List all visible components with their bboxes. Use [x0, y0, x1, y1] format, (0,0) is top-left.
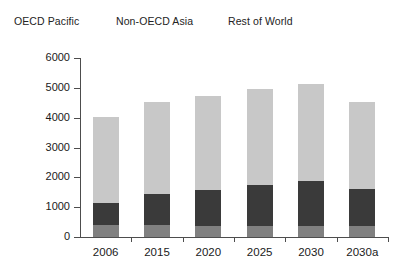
x-axis-tick [285, 237, 286, 242]
x-axis-tick [388, 237, 389, 242]
bar-2006 [93, 117, 119, 237]
x-axis-tick [234, 237, 235, 242]
y-axis-tick-label: 1000 [24, 201, 70, 212]
legend-item-non-oecd-asia: Non-OECD Asia [116, 14, 193, 28]
x-axis-tick-label: 2030a [332, 246, 392, 259]
bar-segment [195, 190, 221, 226]
x-axis-tick [337, 237, 338, 242]
bar-segment [93, 225, 119, 237]
y-axis-tick-label: 3000 [24, 142, 70, 153]
plot-area [80, 58, 388, 237]
bar-segment [93, 117, 119, 203]
y-axis-tick-label: 5000 [24, 82, 70, 93]
y-axis-tick-label: 4000 [24, 112, 70, 123]
bar-2025 [247, 89, 273, 237]
bar-segment [298, 181, 324, 226]
y-axis-tick-label: 2000 [24, 171, 70, 182]
bar-segment [195, 226, 221, 237]
bar-segment [349, 226, 375, 237]
bar-segment [298, 84, 324, 181]
chart-legend: OECD Pacific Non-OECD Asia Rest of World [0, 14, 398, 32]
bar-segment [349, 102, 375, 189]
legend-item-rest-of-world: Rest of World [228, 14, 293, 28]
stacked-bar-chart: OECD Pacific Non-OECD Asia Rest of World… [0, 0, 398, 273]
bar-2030a [349, 102, 375, 237]
bar-segment [144, 102, 170, 193]
bar-segment [247, 185, 273, 226]
legend-item-oecd-pacific: OECD Pacific [14, 14, 79, 28]
bar-segment [195, 96, 221, 190]
bar-segment [144, 225, 170, 237]
bar-segment [247, 226, 273, 237]
bar-segment [349, 189, 375, 227]
bar-segment [144, 194, 170, 226]
y-axis-tick-label: 6000 [24, 52, 70, 63]
y-axis-tick-label: 0 [24, 231, 70, 242]
bar-2030 [298, 84, 324, 237]
bar-segment [298, 226, 324, 237]
bar-2015 [144, 102, 170, 237]
x-axis-tick [183, 237, 184, 242]
bar-2020 [195, 96, 221, 237]
x-axis-tick [131, 237, 132, 242]
bar-segment [247, 89, 273, 185]
bar-segment [93, 203, 119, 225]
y-axis-tick [74, 237, 80, 238]
